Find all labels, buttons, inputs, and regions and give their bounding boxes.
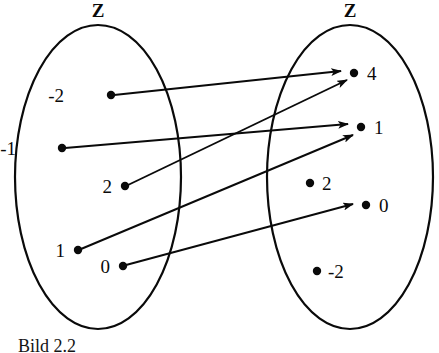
figure-canvas: Z Z -2 -1 2 1 0 4 1 2 0 -2 Bild 2.2 (0, 0, 439, 353)
codomain-set-ellipse (267, 25, 433, 329)
codomain-dot-4 (350, 69, 358, 77)
figure-caption: Bild 2.2 (18, 336, 76, 353)
domain-dot-2 (121, 182, 129, 190)
domain-label-neg1: -1 (0, 139, 16, 158)
codomain-label-neg2: -2 (328, 262, 344, 281)
codomain-label-4: 4 (367, 64, 377, 83)
codomain-dot-2 (306, 179, 314, 187)
codomain-dot-0 (362, 201, 370, 209)
domain-set-label: Z (78, 1, 118, 20)
arrow-2-to-4 (128, 80, 347, 185)
domain-dot-0 (119, 262, 127, 270)
codomain-dot-neg2 (313, 267, 321, 275)
codomain-dot-1 (357, 123, 365, 131)
arrow-neg1-to-1 (65, 124, 348, 148)
domain-dot-1 (74, 246, 82, 254)
mapping-arrows (65, 71, 353, 265)
domain-dot-neg2 (107, 91, 115, 99)
domain-label-0: 0 (80, 257, 110, 276)
domain-label-1: 1 (35, 241, 65, 260)
domain-label-2: 2 (82, 177, 112, 196)
codomain-label-1: 1 (374, 118, 384, 137)
arrow-0-to-0 (126, 204, 353, 265)
domain-dot-neg1 (58, 144, 66, 152)
codomain-element-dots (306, 69, 370, 275)
arrow-neg2-to-4 (114, 71, 341, 95)
arrow-1-to-1 (81, 135, 353, 249)
diagram-svg (0, 0, 439, 353)
codomain-label-2: 2 (322, 174, 332, 193)
codomain-set-label: Z (330, 1, 370, 20)
codomain-label-0: 0 (379, 196, 389, 215)
domain-label-neg2: -2 (34, 86, 64, 105)
